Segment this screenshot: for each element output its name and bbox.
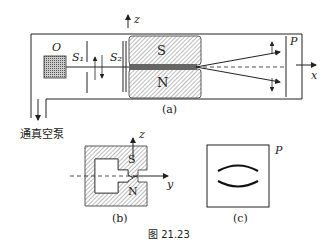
source-oven (44, 56, 66, 78)
label-magnet-n: N (157, 76, 168, 89)
label-panel-b: (b) (112, 213, 128, 224)
label-axis-y: y (167, 179, 173, 190)
label-axis-z-b: z (139, 129, 145, 140)
label-pump: 通真空泵 (20, 129, 64, 140)
stern-gerlach-diagram (0, 0, 334, 250)
label-slit1: S₁ (72, 52, 84, 63)
label-screen-c: P (275, 145, 282, 156)
screen-pattern (207, 145, 269, 207)
label-axis-x: x (311, 70, 317, 81)
label-magnet-s: S (157, 44, 166, 57)
label-panel-c: (c) (233, 213, 248, 224)
label-magnet-s-b: S (128, 154, 136, 165)
label-slit2: S₂ (110, 52, 122, 63)
label-axis-z-a: z (134, 14, 140, 25)
label-panel-a: (a) (162, 104, 177, 115)
label-source: O (52, 42, 61, 53)
label-screen: P (290, 36, 297, 47)
label-magnet-n-b: N (128, 186, 138, 197)
figure-caption: 图 21.23 (148, 230, 190, 240)
